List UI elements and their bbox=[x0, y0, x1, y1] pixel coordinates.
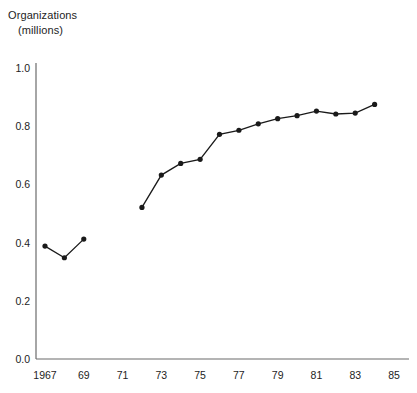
y-tick-label: 0.8 bbox=[0, 120, 30, 132]
y-tick-label: 1.0 bbox=[0, 62, 30, 74]
data-point-marker bbox=[178, 161, 183, 166]
y-tick-label: 0.6 bbox=[0, 178, 30, 190]
data-point-marker bbox=[353, 111, 358, 116]
x-tick-label: 79 bbox=[272, 369, 284, 381]
data-point-marker bbox=[236, 128, 241, 133]
data-point-marker bbox=[217, 132, 222, 137]
x-tick-label: 75 bbox=[194, 369, 206, 381]
data-point-marker bbox=[372, 102, 377, 107]
x-tick-label: 69 bbox=[78, 369, 90, 381]
y-tick-label: 0.0 bbox=[0, 353, 30, 365]
x-tick-label: 85 bbox=[388, 369, 400, 381]
x-tick-label: 77 bbox=[233, 369, 245, 381]
chart-container: Organizations (millions) 1.00.80.60.40.2… bbox=[0, 0, 417, 393]
data-point-marker bbox=[198, 157, 203, 162]
y-tick-label: 0.4 bbox=[0, 237, 30, 249]
x-tick-label: 1967 bbox=[33, 369, 56, 381]
data-point-marker bbox=[159, 172, 164, 177]
series-line bbox=[45, 239, 84, 258]
data-point-marker bbox=[42, 243, 47, 248]
y-tick-label: 0.2 bbox=[0, 295, 30, 307]
x-tick-label: 81 bbox=[311, 369, 323, 381]
x-tick-label: 71 bbox=[117, 369, 129, 381]
data-point-marker bbox=[314, 108, 319, 113]
series-line bbox=[142, 104, 375, 207]
data-series-group bbox=[42, 102, 377, 261]
x-tick-label: 83 bbox=[349, 369, 361, 381]
data-point-marker bbox=[256, 121, 261, 126]
data-point-marker bbox=[62, 255, 67, 260]
axis-lines bbox=[36, 63, 409, 359]
data-point-marker bbox=[294, 113, 299, 118]
x-tick-label: 73 bbox=[155, 369, 167, 381]
data-point-marker bbox=[139, 205, 144, 210]
data-point-marker bbox=[81, 237, 86, 242]
plot-area bbox=[0, 0, 417, 393]
data-point-marker bbox=[333, 111, 338, 116]
data-point-marker bbox=[275, 116, 280, 121]
